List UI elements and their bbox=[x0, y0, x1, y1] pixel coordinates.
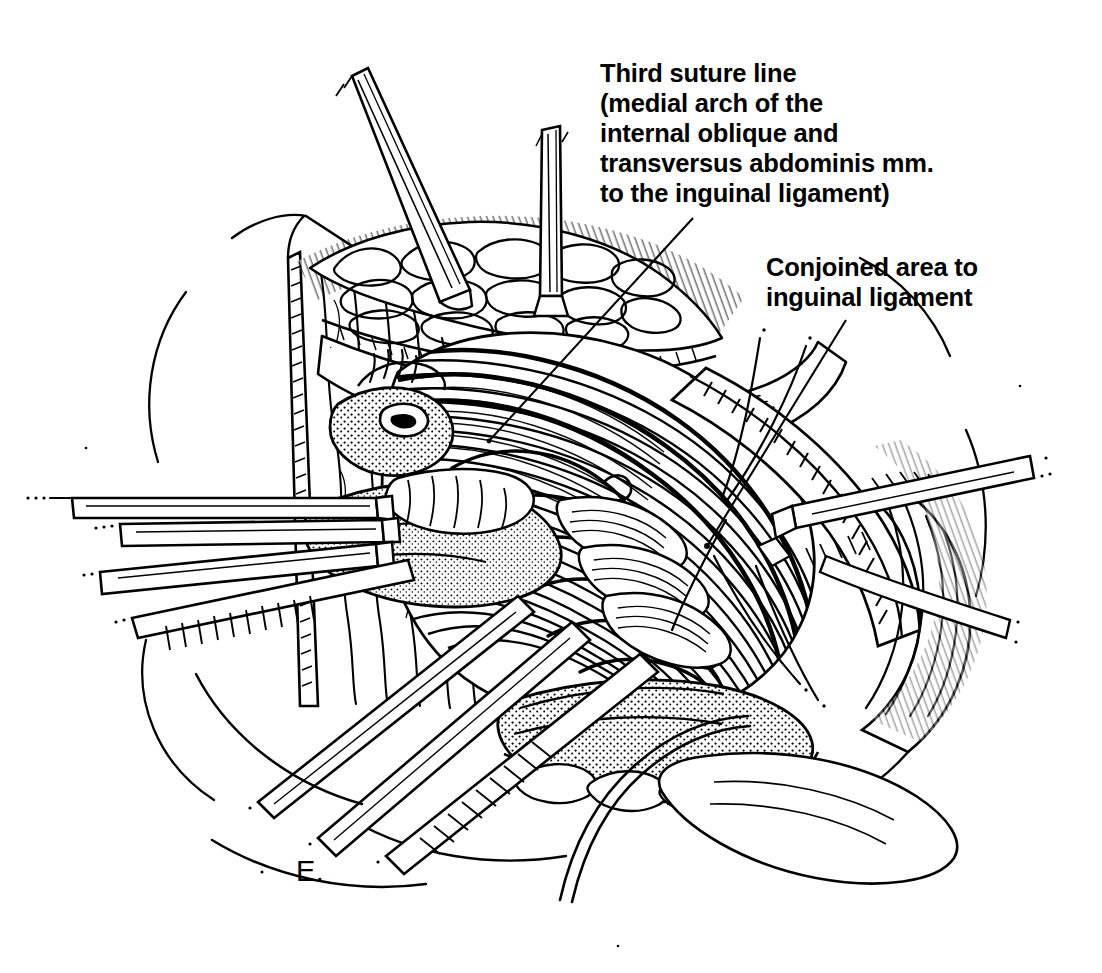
label-third-suture-line: Third suture line (medial arch of the in… bbox=[600, 58, 934, 208]
illustration-page: Third suture line (medial arch of the in… bbox=[0, 0, 1102, 973]
figure-letter: E. bbox=[296, 855, 324, 888]
surgical-illustration bbox=[0, 0, 1102, 973]
retractor-blade-left-upper bbox=[26, 496, 394, 520]
label-conjoined-area: Conjoined area to inguinal ligament bbox=[766, 252, 978, 312]
